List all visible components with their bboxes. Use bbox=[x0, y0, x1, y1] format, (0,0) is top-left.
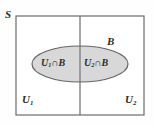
event-b-label: B bbox=[107, 36, 114, 47]
partition-u2-label: U2 bbox=[125, 94, 136, 106]
sample-space-label: S bbox=[5, 9, 11, 20]
venn-diagram-figure: S B U1 U2 U1∩B U2∩B bbox=[0, 0, 155, 126]
partition-u1-subscript: 1 bbox=[30, 99, 33, 106]
intersection-u1-b-label: U1∩B bbox=[41, 58, 65, 69]
intersection-u1-b-suffix: B bbox=[59, 57, 66, 68]
intersection-u1-b-operator: ∩ bbox=[51, 57, 58, 68]
intersection-u2-b-label: U2∩B bbox=[84, 58, 108, 69]
intersection-u2-b-operator: ∩ bbox=[94, 57, 101, 68]
partition-u1-label: U1 bbox=[22, 94, 33, 106]
partition-u1-letter: U bbox=[22, 93, 30, 105]
diagram-canvas bbox=[0, 0, 155, 126]
partition-u2-subscript: 2 bbox=[133, 99, 136, 106]
partition-u2-letter: U bbox=[125, 93, 133, 105]
intersection-u2-b-suffix: B bbox=[102, 57, 109, 68]
